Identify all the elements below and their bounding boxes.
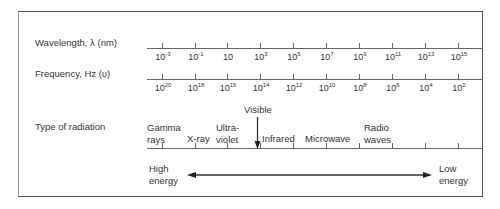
visible-arrow-icon <box>255 117 261 149</box>
energy-double-arrow-icon <box>187 172 432 178</box>
arrows-layer <box>0 0 500 209</box>
